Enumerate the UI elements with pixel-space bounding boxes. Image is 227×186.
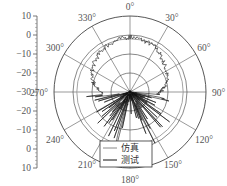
angle-label: 180° <box>121 175 139 185</box>
legend-label-test: 测试 <box>121 154 139 165</box>
radial-tick-label: 0 <box>26 144 31 154</box>
radial-tick-label: −20 <box>16 106 31 116</box>
grid-spoke <box>64 54 130 92</box>
series-test <box>87 35 170 145</box>
legend-label-sim: 仿真 <box>121 142 139 153</box>
radial-tick-label: 10 <box>22 11 32 21</box>
angle-label: 120° <box>195 135 213 145</box>
legend: 仿真 测试 <box>100 141 152 167</box>
angle-label: 60° <box>197 43 211 53</box>
radial-tick-label: 0 <box>26 30 31 40</box>
angle-label: 210° <box>78 160 96 170</box>
angle-label: 90° <box>212 88 226 98</box>
radial-tick-label: −10 <box>16 125 31 135</box>
grid-spoke <box>92 26 130 92</box>
polar-chart: 100−10−20−30−20−10010 0°30°60°90°120°150… <box>0 0 227 186</box>
grid-spoke <box>130 54 196 92</box>
angle-label: 30° <box>165 13 179 23</box>
radial-tick-label: −10 <box>16 49 31 59</box>
angle-label: 300° <box>46 43 64 53</box>
angle-label: 270° <box>30 88 48 98</box>
angle-label: 240° <box>46 135 64 145</box>
angle-label: 0° <box>126 2 135 12</box>
angle-label: 330° <box>78 13 96 23</box>
angle-label: 150° <box>164 160 182 170</box>
radial-tick-label: −20 <box>16 68 31 78</box>
radial-tick-label: 10 <box>22 163 32 173</box>
